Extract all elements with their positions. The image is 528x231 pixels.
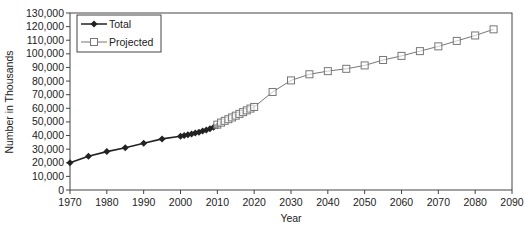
data-point xyxy=(324,68,331,75)
y-tick-label: 40,000 xyxy=(32,129,64,141)
data-point xyxy=(269,88,276,95)
y-tick-label: 120,000 xyxy=(26,20,64,32)
data-point xyxy=(122,144,129,151)
data-point xyxy=(103,148,110,155)
y-tick-label: 20,000 xyxy=(32,156,64,168)
y-tick-label: 10,000 xyxy=(32,170,64,182)
x-tick-label: 2020 xyxy=(242,196,266,208)
y-tick-label: 90,000 xyxy=(32,61,64,73)
data-point xyxy=(490,26,497,33)
y-tick-label: 110,000 xyxy=(27,34,64,46)
x-axis-label: Year xyxy=(280,212,302,224)
line-chart: 010,00020,00030,00040,00050,00060,00070,… xyxy=(0,0,528,231)
data-point xyxy=(472,32,479,39)
data-point xyxy=(288,77,295,84)
series-projected xyxy=(214,26,497,128)
y-tick-label: 80,000 xyxy=(32,75,64,87)
x-tick-label: 2030 xyxy=(279,196,303,208)
x-tick-label: 1970 xyxy=(58,196,82,208)
data-point xyxy=(380,56,387,63)
x-tick-label: 1990 xyxy=(132,196,156,208)
y-axis-label: Number in Thousands xyxy=(3,50,15,153)
y-tick-label: 130,000 xyxy=(26,7,64,19)
data-point xyxy=(159,135,166,142)
x-tick-label: 2050 xyxy=(353,196,377,208)
data-point xyxy=(453,37,460,44)
data-point xyxy=(306,71,313,78)
data-point xyxy=(416,48,423,55)
data-point xyxy=(140,140,147,147)
x-tick-label: 2000 xyxy=(169,196,193,208)
data-point xyxy=(67,159,74,166)
x-tick-label: 2070 xyxy=(427,196,451,208)
x-tick-label: 2090 xyxy=(500,196,524,208)
data-point xyxy=(398,52,405,59)
y-tick-label: 100,000 xyxy=(26,47,64,59)
data-point xyxy=(343,65,350,72)
legend-label-total: Total xyxy=(109,18,131,30)
data-point xyxy=(251,103,258,110)
x-tick-label: 2080 xyxy=(463,196,487,208)
x-tick-label: 2040 xyxy=(316,196,340,208)
series-total xyxy=(67,122,221,166)
y-tick-label: 50,000 xyxy=(32,115,64,127)
data-point xyxy=(361,62,368,69)
y-tick-label: 70,000 xyxy=(32,88,64,100)
legend-label-projected: Projected xyxy=(109,36,154,48)
data-point xyxy=(435,43,442,50)
y-tick-label: 0 xyxy=(58,184,64,196)
square-marker-icon xyxy=(91,39,98,46)
x-tick-label: 2010 xyxy=(206,196,230,208)
legend: Total Projected xyxy=(77,15,161,52)
svg-text:Number in Thousands: Number in Thousands xyxy=(3,50,15,153)
y-tick-label: 60,000 xyxy=(32,102,64,114)
x-tick-label: 2060 xyxy=(390,196,414,208)
x-tick-label: 1980 xyxy=(95,196,119,208)
series-line xyxy=(217,29,493,124)
data-point xyxy=(85,153,92,160)
y-tick-label: 30,000 xyxy=(32,143,64,155)
